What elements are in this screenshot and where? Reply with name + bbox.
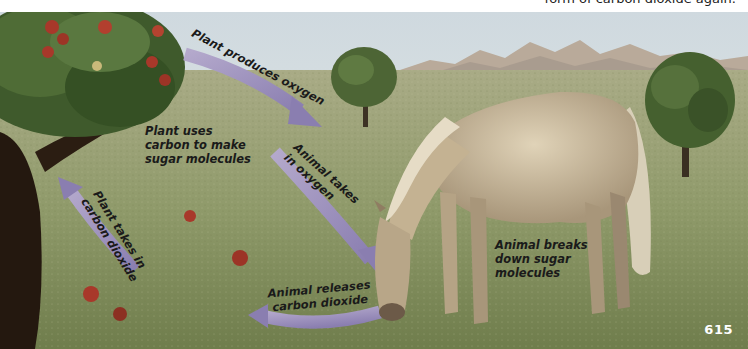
fallen-apple (113, 307, 127, 321)
label-line: sugar molecules (145, 152, 251, 166)
label-line: carbon to make (145, 138, 251, 152)
label-line: down sugar (495, 252, 588, 266)
carbon-cycle-illustration: Plant produces oxygen Plant uses carbon … (0, 12, 748, 349)
label-line: molecules (495, 266, 588, 280)
fallen-apple (184, 210, 196, 222)
label-plant-uses-carbon: Plant uses carbon to make sugar molecule… (145, 124, 251, 166)
scene-artwork (0, 12, 748, 349)
page-number: 615 (704, 322, 733, 337)
fallen-apple (83, 286, 99, 302)
top-caption-strip: form of carbon dioxide again. (0, 0, 748, 12)
label-line: Animal breaks (495, 238, 588, 252)
caption-fragment: form of carbon dioxide again. (545, 0, 736, 6)
label-line: Plant uses (145, 124, 251, 138)
fallen-apple (232, 250, 248, 266)
label-animal-breaks-down: Animal breaks down sugar molecules (495, 238, 588, 280)
